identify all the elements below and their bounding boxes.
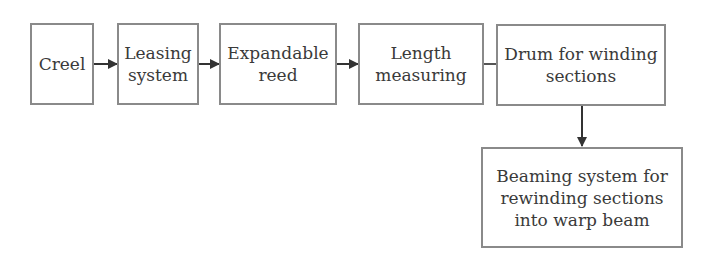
- node-reed-label: Expandable reed: [227, 42, 328, 86]
- node-leasing-label: Leasing system: [124, 42, 191, 86]
- node-drum-label: Drum for winding sections: [504, 43, 657, 87]
- node-expandable-reed: Expandable reed: [219, 23, 337, 105]
- node-creel-label: Creel: [39, 53, 86, 75]
- node-length-label: Length measuring: [375, 42, 466, 86]
- node-length-measuring: Length measuring: [358, 23, 484, 105]
- node-creel: Creel: [30, 23, 94, 105]
- node-beaming-label: Beaming system for rewinding sections in…: [496, 165, 668, 231]
- node-leasing-system: Leasing system: [117, 23, 199, 105]
- node-drum: Drum for winding sections: [496, 24, 666, 106]
- node-beaming-system: Beaming system for rewinding sections in…: [481, 147, 683, 248]
